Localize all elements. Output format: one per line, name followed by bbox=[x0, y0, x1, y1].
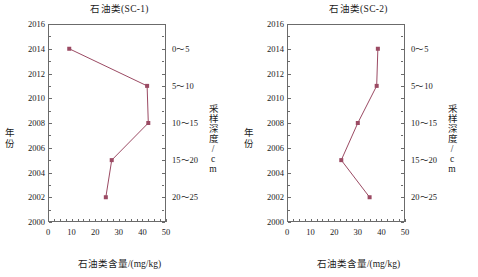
x-tick-label-sc-2-40: 40 bbox=[377, 228, 386, 237]
depth-tick-label-sc-2-0: 0～5 bbox=[411, 45, 429, 54]
data-point-sc-2-2008[interactable] bbox=[356, 121, 360, 125]
x-tick-label-sc-2-20: 20 bbox=[330, 228, 339, 237]
y-tick-label-sc-1-2014: 2014 bbox=[11, 45, 45, 54]
y-tick-label-sc-2-2012: 2012 bbox=[250, 69, 284, 78]
figure-container: 石油类(SC-1) 200020022004200620082010201220… bbox=[0, 0, 478, 277]
data-point-sc-2-2005[interactable] bbox=[339, 158, 343, 162]
y-tick-label-sc-2-2010: 2010 bbox=[250, 94, 284, 103]
y-tick-label-sc-1-2004: 2004 bbox=[11, 168, 45, 177]
x-tick-label-sc-2-30: 30 bbox=[354, 228, 363, 237]
x-tick-sc-1-50 bbox=[166, 219, 167, 222]
x-tick-label-sc-1-20: 20 bbox=[91, 228, 100, 237]
y-tick-sc-2-2000 bbox=[288, 222, 291, 223]
x-axis-title-sc-1: 石油类含量/(mg/kg) bbox=[0, 256, 239, 270]
data-point-sc-1-2005[interactable] bbox=[110, 158, 114, 162]
depth-tick-label-sc-1-1: 5～10 bbox=[172, 82, 194, 91]
y-axis-title-sc-2: 年份 bbox=[241, 128, 255, 150]
x-tick-label-sc-2-10: 10 bbox=[306, 228, 315, 237]
panel-title-sc-1: 石油类(SC-1) bbox=[0, 1, 239, 15]
x-tick-label-sc-2-50: 50 bbox=[401, 228, 410, 237]
x-axis-title-sc-2: 石油类含量/(mg/kg) bbox=[239, 256, 478, 270]
y-tick-label-sc-2-2004: 2004 bbox=[250, 168, 284, 177]
depth-tick-label-sc-2-4: 20～25 bbox=[411, 193, 437, 202]
depth-tick-label-sc-2-2: 10～15 bbox=[411, 119, 437, 128]
y-tick-label-sc-2-2016: 2016 bbox=[250, 20, 284, 29]
x-tick-label-sc-1-10: 10 bbox=[67, 228, 76, 237]
series-line-sc-1 bbox=[48, 24, 166, 222]
chart-panel-sc-2: 石油类(SC-2) 200020022004200620082010201220… bbox=[239, 0, 478, 277]
series-polyline-sc-1 bbox=[69, 49, 148, 198]
series-line-sc-2 bbox=[287, 24, 405, 222]
y-tick-label-sc-1-2000: 2000 bbox=[11, 218, 45, 227]
y2-tick-sc-2-2000 bbox=[401, 222, 404, 223]
y-tick-label-sc-2-2006: 2006 bbox=[250, 144, 284, 153]
y2-tick-sc-1-2000 bbox=[162, 222, 165, 223]
x-tick-label-sc-1-50: 50 bbox=[162, 228, 171, 237]
panel-title-sc-2: 石油类(SC-2) bbox=[239, 1, 478, 15]
y-tick-label-sc-1-2008: 2008 bbox=[11, 119, 45, 128]
y-tick-label-sc-1-2016: 2016 bbox=[11, 20, 45, 29]
y-tick-sc-1-2000 bbox=[49, 222, 52, 223]
x-tick-label-sc-1-30: 30 bbox=[115, 228, 124, 237]
y-tick-label-sc-1-2006: 2006 bbox=[11, 144, 45, 153]
data-point-sc-1-2011[interactable] bbox=[145, 84, 149, 88]
x-tick-label-sc-1-0: 0 bbox=[46, 228, 50, 237]
y2-axis-title-sc-2: 采样深度/cm bbox=[445, 104, 459, 174]
x-tick-label-sc-1-40: 40 bbox=[138, 228, 147, 237]
depth-tick-label-sc-1-2: 10～15 bbox=[172, 119, 198, 128]
data-point-sc-2-2014[interactable] bbox=[376, 47, 380, 51]
y-tick-label-sc-1-2012: 2012 bbox=[11, 69, 45, 78]
data-point-sc-1-2014[interactable] bbox=[67, 47, 71, 51]
chart-panel-sc-1: 石油类(SC-1) 200020022004200620082010201220… bbox=[0, 0, 239, 277]
y-tick-label-sc-2-2002: 2002 bbox=[250, 193, 284, 202]
x-tick-sc-2-50 bbox=[405, 219, 406, 222]
depth-tick-label-sc-1-3: 15～20 bbox=[172, 156, 198, 165]
depth-tick-label-sc-1-4: 20～25 bbox=[172, 193, 198, 202]
y-tick-label-sc-2-2008: 2008 bbox=[250, 119, 284, 128]
data-point-sc-1-2008[interactable] bbox=[146, 121, 150, 125]
y-tick-label-sc-2-2014: 2014 bbox=[250, 45, 284, 54]
y-axis-title-sc-1: 年份 bbox=[2, 128, 16, 150]
y2-axis-title-sc-1: 采样深度/cm bbox=[206, 104, 220, 174]
data-point-sc-1-2002[interactable] bbox=[104, 195, 108, 199]
depth-tick-label-sc-2-3: 15～20 bbox=[411, 156, 437, 165]
y-tick-label-sc-1-2002: 2002 bbox=[11, 193, 45, 202]
x-tick-label-sc-2-0: 0 bbox=[285, 228, 289, 237]
depth-tick-label-sc-2-1: 5～10 bbox=[411, 82, 433, 91]
data-point-sc-2-2011[interactable] bbox=[375, 84, 379, 88]
data-point-sc-2-2002[interactable] bbox=[368, 195, 372, 199]
depth-tick-label-sc-1-0: 0～5 bbox=[172, 45, 190, 54]
y-tick-label-sc-1-2010: 2010 bbox=[11, 94, 45, 103]
y-tick-label-sc-2-2000: 2000 bbox=[250, 218, 284, 227]
